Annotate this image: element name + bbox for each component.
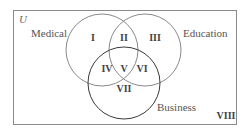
medical-circle bbox=[66, 14, 138, 86]
set-label-business: Business bbox=[157, 102, 196, 113]
education-circle bbox=[109, 14, 181, 86]
region-label-v: V bbox=[120, 64, 127, 74]
region-label-viii: VIII bbox=[217, 111, 236, 121]
region-label-ii: II bbox=[120, 33, 128, 43]
region-label-iv: IV bbox=[101, 64, 112, 74]
region-label-vii: VII bbox=[116, 84, 131, 94]
region-label-iii: III bbox=[149, 33, 161, 43]
set-label-medical: Medical bbox=[31, 28, 67, 39]
region-label-i: I bbox=[91, 33, 95, 43]
region-label-vi: VI bbox=[136, 64, 147, 74]
set-label-education: Education bbox=[183, 28, 228, 39]
universe-label: U bbox=[19, 14, 27, 25]
